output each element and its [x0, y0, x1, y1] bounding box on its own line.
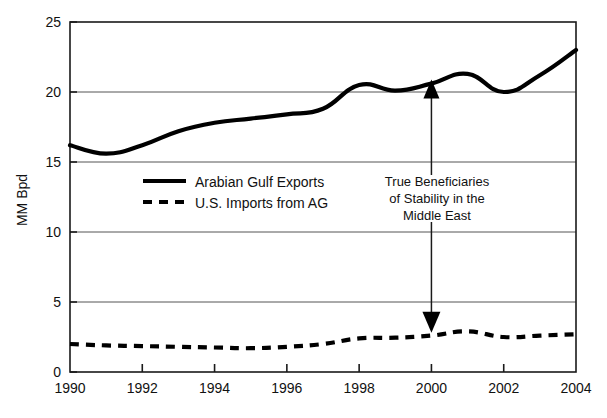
annotation-line-2: of Stability in the: [389, 191, 484, 206]
chart-container: 0510152025 19901992199419961998200020022…: [0, 0, 607, 418]
x-axis-tick-label: 1992: [127, 380, 158, 396]
y-axis-tick-labels: 0510152025: [45, 14, 61, 380]
x-axis-tick-label: 1994: [199, 380, 230, 396]
legend-label-1: U.S. Imports from AG: [195, 195, 328, 211]
y-axis-tick-label: 20: [45, 84, 61, 100]
line-chart: 0510152025 19901992199419961998200020022…: [0, 0, 607, 418]
y-axis-tick-label: 0: [53, 364, 61, 380]
y-axis-tick-label: 15: [45, 154, 61, 170]
y-axis-tick-label: 5: [53, 294, 61, 310]
legend-label-0: Arabian Gulf Exports: [195, 174, 324, 190]
x-axis-tick-label: 2004: [560, 380, 591, 396]
y-axis-tick-label: 25: [45, 14, 61, 30]
annotation-line-3: Middle East: [403, 208, 471, 223]
annotation-line-1: True Beneficiaries: [385, 174, 490, 189]
x-axis-tick-label: 1998: [344, 380, 375, 396]
y-axis-title: MM Bpd: [14, 174, 30, 226]
x-axis-tick-label: 2002: [488, 380, 519, 396]
x-axis-tick-label: 1990: [54, 380, 85, 396]
y-axis-tick-label: 10: [45, 224, 61, 240]
x-axis-tick-labels: 19901992199419961998200020022004: [54, 380, 591, 396]
x-axis-tick-label: 2000: [416, 380, 447, 396]
x-axis-tick-label: 1996: [271, 380, 302, 396]
